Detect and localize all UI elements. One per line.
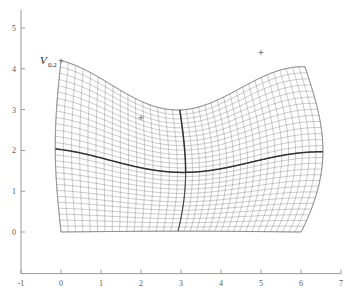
y-tick-label-0: 0 [12, 228, 16, 237]
y-tick-label-3: 3 [12, 106, 16, 115]
plot-canvas: -101234567012345 V 0,2 [0, 0, 355, 296]
y-tick-label-4: 4 [12, 65, 16, 74]
x-tick-label-7: 6 [299, 279, 303, 288]
x-tick-label-6: 5 [259, 279, 263, 288]
mesh-plot-figure: -101234567012345 V 0,2 [0, 0, 355, 296]
x-tick-label-5: 4 [219, 279, 223, 288]
x-tick-label-1: 0 [59, 279, 63, 288]
y-tick-label-2: 2 [12, 146, 16, 155]
corner-label-subscript: 0,2 [48, 61, 57, 69]
x-tick-label-4: 3 [179, 279, 183, 288]
x-tick-label-0: -1 [18, 279, 25, 288]
y-tick-label-5: 5 [12, 24, 16, 33]
y-tick-label-1: 1 [12, 187, 16, 196]
plot-background [0, 0, 355, 296]
x-tick-label-2: 1 [99, 279, 103, 288]
x-tick-label-8: 7 [339, 279, 343, 288]
x-tick-label-3: 2 [139, 279, 143, 288]
